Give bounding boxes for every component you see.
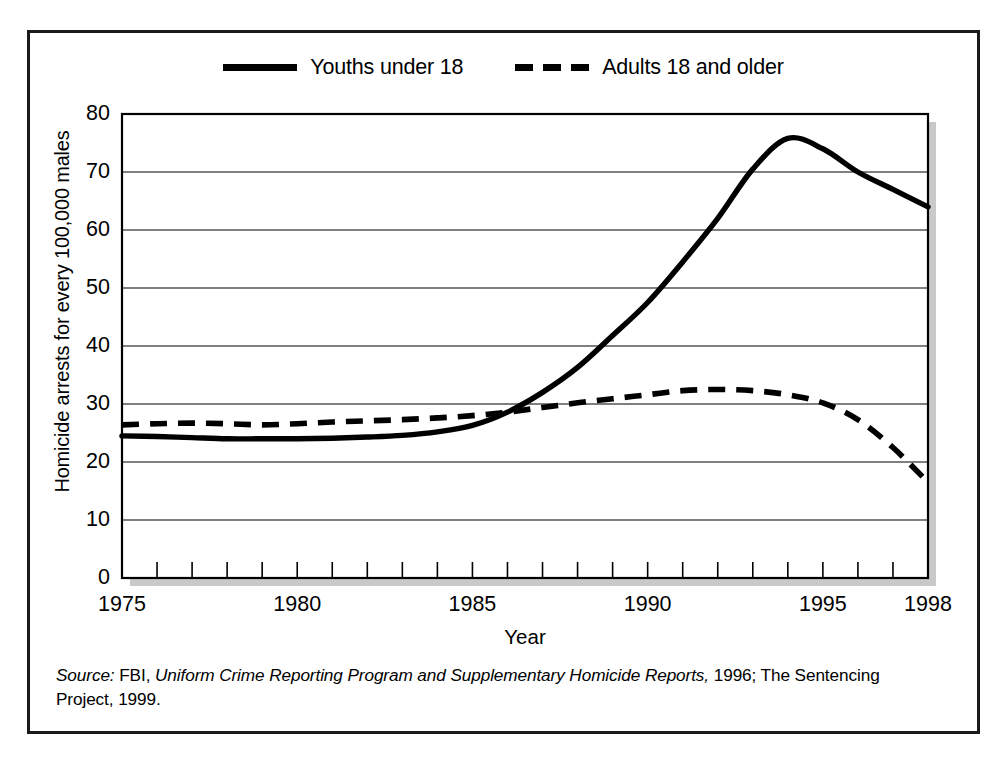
source-note: Source: FBI, Uniform Crime Reporting Pro… [56, 663, 926, 712]
x-tick-1975: 1975 [77, 594, 167, 616]
x-tick-1995: 1995 [778, 594, 868, 616]
x-tick-1990: 1990 [603, 594, 693, 616]
homicide-arrest-rate-figure: Youths under 18 Adults 18 and older Homi… [0, 0, 1005, 765]
y-tick-50: 50 [50, 277, 110, 299]
source-agency: FBI, [115, 665, 155, 685]
source-prefix: Source: [56, 665, 115, 685]
x-tick-1985: 1985 [427, 594, 517, 616]
x-axis-title: Year [122, 625, 928, 649]
y-tick-20: 20 [50, 451, 110, 473]
source-title: Uniform Crime Reporting Program and Supp… [155, 665, 709, 685]
plot-canvas [0, 0, 1005, 765]
y-tick-70: 70 [50, 161, 110, 183]
y-tick-40: 40 [50, 335, 110, 357]
y-tick-0: 0 [50, 567, 110, 589]
y-tick-10: 10 [50, 509, 110, 531]
y-tick-60: 60 [50, 219, 110, 241]
y-tick-80: 80 [50, 103, 110, 125]
x-tick-1980: 1980 [252, 594, 342, 616]
x-tick-1998: 1998 [883, 594, 973, 616]
y-tick-30: 30 [50, 393, 110, 415]
